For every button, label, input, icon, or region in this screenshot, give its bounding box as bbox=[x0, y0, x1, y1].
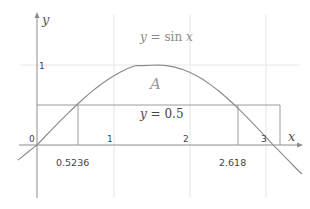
sine-area-chart: 0 1 2 3 1 y x y = sin x A y = 0.5 0.5236… bbox=[0, 0, 310, 209]
tick-label-0: 0 bbox=[29, 134, 35, 144]
y-axis-arrow-icon bbox=[35, 12, 40, 18]
curve-equation-label: y = sin x bbox=[139, 30, 193, 44]
intersection-left-value: 0.5236 bbox=[56, 157, 89, 168]
intersection-right-value: 2.618 bbox=[219, 157, 246, 168]
line-equation-label: y = 0.5 bbox=[139, 107, 184, 121]
x-axis-arrow-icon bbox=[297, 143, 303, 148]
tick-label-x1: 1 bbox=[107, 134, 113, 144]
tick-label-x2: 2 bbox=[183, 134, 189, 144]
tick-label-x3: 3 bbox=[261, 134, 267, 144]
y-axis-label: y bbox=[41, 12, 50, 27]
area-label: A bbox=[148, 75, 161, 93]
tick-label-y1: 1 bbox=[39, 61, 45, 71]
x-axis-label: x bbox=[288, 129, 296, 144]
